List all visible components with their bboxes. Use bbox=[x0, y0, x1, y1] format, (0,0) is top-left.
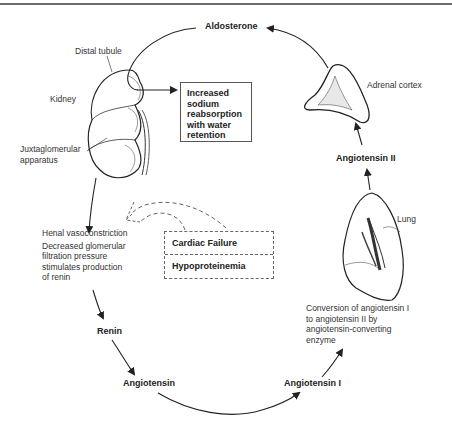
hypoproteinemia-label: Hypoproteinemia bbox=[172, 261, 246, 271]
lung-label: Lung bbox=[397, 214, 416, 225]
conversion-line: enzyme bbox=[306, 335, 409, 346]
effect-line: sodium bbox=[187, 99, 245, 110]
effect-line: retention bbox=[187, 130, 245, 141]
angiotensin-i-node: Angiotensin I bbox=[284, 378, 341, 389]
juxtaglomerular-line2: apparatus bbox=[20, 155, 80, 166]
sodium-reabsorption-box: Increased sodium reabsorption with water… bbox=[180, 82, 252, 142]
conversion-line: angiotensin-converting bbox=[306, 324, 409, 335]
diagram-artwork bbox=[0, 0, 452, 438]
renal-line: Decreased glomerular bbox=[42, 241, 128, 252]
conversion-line: Conversion of angiotensin I bbox=[306, 303, 409, 314]
effect-line: reabsorption bbox=[187, 109, 245, 120]
distal-tubule-label: Distal tubule bbox=[75, 46, 122, 57]
adrenal-cortex-label: Adrenal cortex bbox=[367, 80, 422, 91]
renal-line: filtration pressure bbox=[42, 251, 128, 262]
juxtaglomerular-line1: Juxtaglomerular bbox=[20, 144, 80, 155]
angiotensin-ii-node: Angiotensin II bbox=[336, 153, 396, 164]
conversion-line: to angiotensin II by bbox=[306, 314, 409, 325]
renal-vasoconstriction-text: Henal vasoconstriction Decreased glomeru… bbox=[42, 228, 128, 283]
renal-line: of renin bbox=[42, 272, 128, 283]
angiotensin-node: Angiotensin bbox=[123, 378, 175, 389]
causes-dashed-box: Cardiac Failure Hypoproteinemia bbox=[164, 231, 274, 279]
adrenal-cortex-icon bbox=[305, 65, 370, 123]
lung-icon bbox=[343, 193, 403, 300]
effect-line: with water bbox=[187, 120, 245, 131]
dashed-divider bbox=[165, 254, 273, 255]
effect-line: Increased bbox=[187, 88, 245, 99]
renal-line: stimulates production bbox=[42, 262, 128, 273]
aldosterone-node: Aldosterone bbox=[205, 21, 258, 32]
kidney-icon bbox=[88, 70, 149, 178]
cardiac-failure-label: Cardiac Failure bbox=[172, 238, 237, 248]
renin-node: Renin bbox=[97, 326, 122, 337]
juxtaglomerular-label: Juxtaglomerular apparatus bbox=[20, 144, 80, 165]
renal-line1: Henal vasoconstriction bbox=[42, 228, 128, 239]
kidney-label: Kidney bbox=[50, 94, 76, 105]
ace-conversion-text: Conversion of angiotensin I to angiotens… bbox=[306, 303, 409, 345]
